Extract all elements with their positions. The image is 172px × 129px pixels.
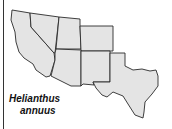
state-colorado <box>80 26 113 51</box>
species-label-genus: Helianthus <box>9 93 60 104</box>
state-new-mexico <box>81 51 110 86</box>
species-label-epithet: annuus <box>20 105 56 116</box>
state-arizona <box>51 49 81 86</box>
state-utah <box>56 17 81 49</box>
